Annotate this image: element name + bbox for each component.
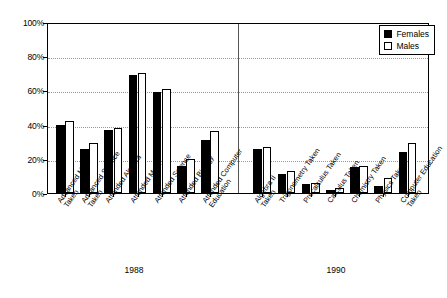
y-tick-mark-100 xyxy=(43,23,47,24)
bar-males-9 xyxy=(311,183,320,193)
x-tick-mark-10 xyxy=(335,193,336,197)
year-label-1990: 1990 xyxy=(316,266,356,275)
bar-males-6 xyxy=(210,131,219,193)
y-tick-mark-20 xyxy=(43,160,47,161)
bar-females-6 xyxy=(201,140,210,193)
bar-males-13 xyxy=(408,143,417,193)
legend-item-females: Females xyxy=(384,29,429,39)
bar-females-1 xyxy=(80,149,89,193)
legend-item-males: Males xyxy=(384,41,429,51)
y-tick-label-0: 0% xyxy=(2,190,44,199)
bar-females-8 xyxy=(278,174,287,193)
legend-label-females: Females xyxy=(396,29,429,39)
y-tick-label-40: 40% xyxy=(2,122,44,131)
x-tick-mark-5 xyxy=(186,193,187,197)
bar-males-8 xyxy=(287,171,296,193)
plot-area xyxy=(47,23,429,194)
bar-males-4 xyxy=(162,89,171,193)
bar-females-0 xyxy=(56,125,65,193)
legend-label-males: Males xyxy=(396,41,419,51)
bar-males-11 xyxy=(359,166,368,193)
x-tick-mark-0 xyxy=(65,193,66,197)
x-tick-mark-4 xyxy=(162,193,163,197)
x-tick-mark-11 xyxy=(359,193,360,197)
bar-females-9 xyxy=(302,184,311,193)
y-tick-mark-40 xyxy=(43,126,47,127)
legend-swatch-males-icon xyxy=(384,42,392,50)
bar-males-10 xyxy=(335,188,344,193)
x-tick-mark-8 xyxy=(287,193,288,197)
bar-females-2 xyxy=(104,130,113,193)
x-tick-mark-3 xyxy=(138,193,139,197)
x-tick-mark-9 xyxy=(311,193,312,197)
bar-males-5 xyxy=(186,159,195,193)
bar-females-13 xyxy=(399,152,408,193)
y-tick-mark-80 xyxy=(43,57,47,58)
year-label-1988: 1988 xyxy=(114,266,154,275)
x-tick-mark-12 xyxy=(383,193,384,197)
bar-males-1 xyxy=(89,143,98,193)
x-tick-mark-2 xyxy=(113,193,114,197)
y-tick-label-100: 100% xyxy=(2,19,44,28)
x-tick-mark-13 xyxy=(408,193,409,197)
legend-swatch-females-icon xyxy=(384,30,392,38)
bar-males-2 xyxy=(114,128,123,193)
bar-females-3 xyxy=(129,75,138,193)
bar-females-10 xyxy=(326,190,335,193)
y-tick-label-20: 20% xyxy=(2,156,44,165)
y-tick-mark-60 xyxy=(43,91,47,92)
y-tick-label-60: 60% xyxy=(2,87,44,96)
bar-females-11 xyxy=(350,167,359,193)
bar-males-3 xyxy=(138,73,147,193)
bar-males-7 xyxy=(263,147,272,193)
x-tick-mark-1 xyxy=(89,193,90,197)
bar-males-0 xyxy=(65,121,74,193)
chart-legend: Females Males xyxy=(379,25,435,55)
bar-females-5 xyxy=(177,166,186,193)
group-divider xyxy=(238,24,239,193)
y-tick-mark-0 xyxy=(43,194,47,195)
x-tick-mark-7 xyxy=(262,193,263,197)
bar-males-12 xyxy=(384,178,393,193)
y-tick-label-80: 80% xyxy=(2,53,44,62)
bar-females-7 xyxy=(253,149,262,193)
bar-females-12 xyxy=(374,186,383,193)
bar-females-4 xyxy=(153,92,162,193)
x-tick-mark-6 xyxy=(210,193,211,197)
bars-layer xyxy=(48,24,428,193)
